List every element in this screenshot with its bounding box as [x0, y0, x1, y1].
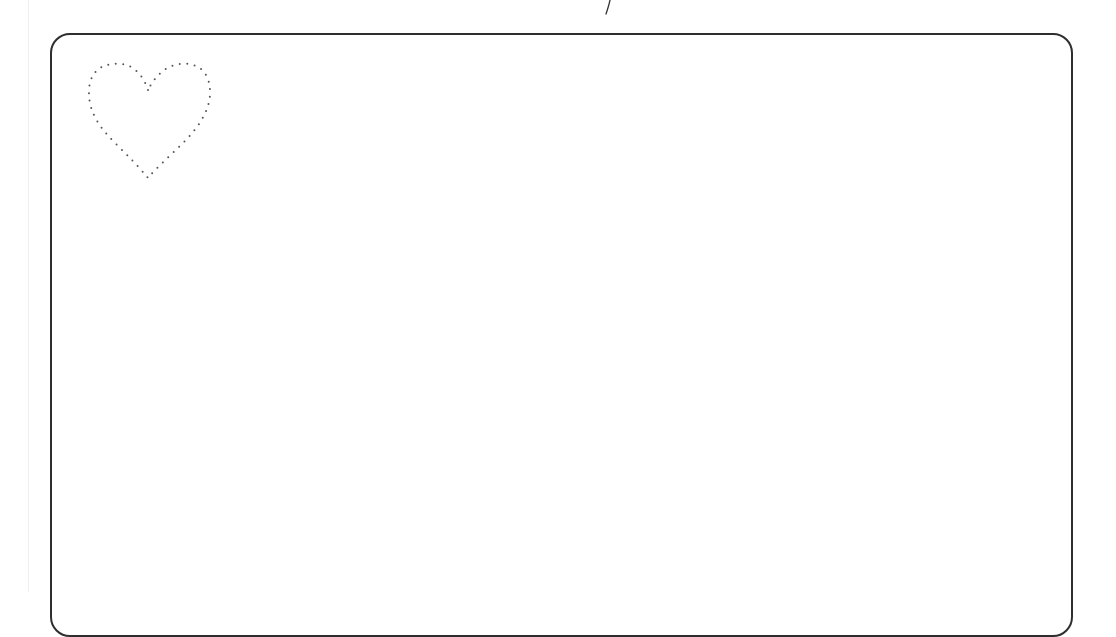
scan-margin-line	[28, 0, 29, 592]
pen-stroke-mark	[600, 0, 620, 20]
dotted-heart-icon	[84, 56, 216, 184]
